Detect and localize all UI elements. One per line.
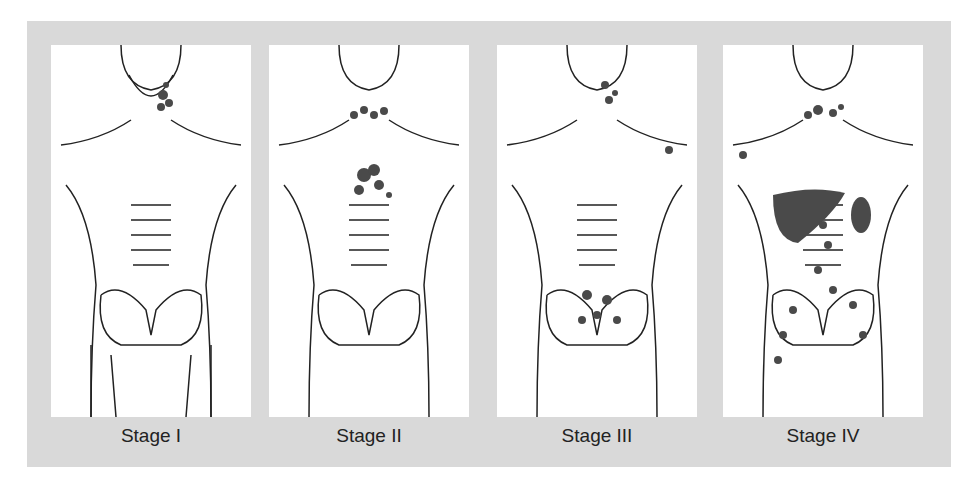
lymph-nodes xyxy=(157,82,173,111)
panel-stage-4 xyxy=(723,45,923,417)
panel-stage-2 xyxy=(269,45,469,417)
stage-label-1: Stage I xyxy=(51,425,251,447)
spleen-involvement xyxy=(851,197,871,233)
stage-label-2: Stage II xyxy=(269,425,469,447)
panel-stage-1 xyxy=(51,45,251,417)
figure-frame: Stage I Stage II Stage III Stage IV xyxy=(27,21,951,467)
body-diagram-stage-2 xyxy=(269,45,469,417)
stage-label-4: Stage IV xyxy=(723,425,923,447)
body-diagram-stage-4 xyxy=(723,45,923,417)
body-diagram-stage-3 xyxy=(497,45,697,417)
panel-stage-3 xyxy=(497,45,697,417)
stage-label-3: Stage III xyxy=(497,425,697,447)
body-diagram-stage-1 xyxy=(51,45,251,417)
